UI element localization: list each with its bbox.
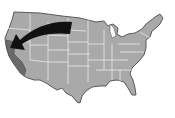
us-land [5, 12, 163, 103]
us-map [0, 0, 175, 118]
